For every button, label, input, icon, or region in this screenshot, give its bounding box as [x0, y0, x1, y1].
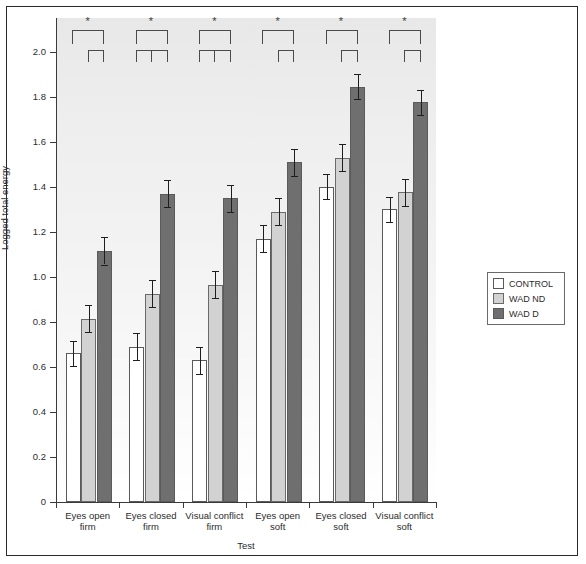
significance-bracket-lower-leg [199, 50, 200, 62]
significance-bracket-lower [278, 50, 294, 51]
error-bar-cap-upper [339, 144, 346, 145]
error-bar-cap-lower [85, 332, 92, 333]
x-axis-tick [119, 502, 120, 508]
significance-bracket-upper [389, 30, 420, 31]
significance-bracket-lower-leg [357, 50, 358, 62]
error-bar-cap-upper [212, 271, 219, 272]
legend-swatch-control-icon [493, 278, 504, 289]
y-axis-tick-label: 2.0 [12, 47, 46, 57]
bar-wadd-group-1 [160, 194, 175, 502]
error-bar-line [279, 198, 280, 225]
error-bar-cap-lower [354, 99, 361, 100]
error-bar-cap-upper [275, 198, 282, 199]
y-axis-tick [50, 52, 56, 53]
x-axis-title: Test [56, 540, 436, 551]
legend-label-control: CONTROL [509, 279, 553, 289]
significance-bracket-lower-leg [136, 50, 137, 62]
error-bar-cap-upper [133, 333, 140, 334]
error-bar-cap-lower [70, 366, 77, 367]
error-bar-line [215, 271, 216, 298]
figure-root: 00.20.40.60.81.01.21.41.61.82.0 Logged t… [0, 0, 586, 564]
x-axis-tick [309, 502, 310, 508]
error-bar-line [342, 144, 343, 171]
error-bar-line [152, 280, 153, 307]
error-bar-cap-upper [70, 341, 77, 342]
error-bar-line [104, 237, 105, 264]
error-bar-cap-upper [323, 174, 330, 175]
significance-bracket-lower-leg [404, 50, 405, 62]
error-bar-line [231, 185, 232, 212]
error-bar-line [200, 347, 201, 374]
legend: CONTROL WAD ND WAD D [487, 272, 565, 325]
bar-wadnd-group-2 [208, 285, 223, 502]
error-bar-line [89, 305, 90, 332]
error-bar-cap-upper [386, 197, 393, 198]
bar-wadnd-group-5 [398, 192, 413, 502]
x-axis-tick [56, 502, 57, 508]
error-bar-line [358, 74, 359, 99]
plot-inner [57, 18, 436, 502]
error-bar-cap-lower [291, 176, 298, 177]
error-bar-line [168, 180, 169, 207]
bar-wadnd-group-1 [145, 294, 160, 502]
significance-bracket-lower [404, 50, 420, 51]
y-axis-tick [50, 232, 56, 233]
error-bar-cap-lower [417, 115, 424, 116]
significance-bracket-lower-leg [151, 50, 152, 62]
significance-bracket-upper-leg [389, 30, 390, 44]
error-bar-cap-lower [402, 206, 409, 207]
significance-bracket-lower-leg [88, 50, 89, 62]
bar-wadnd-group-0 [81, 319, 96, 502]
bar-wadnd-group-4 [335, 158, 350, 502]
y-axis-tick-label: 0.8 [12, 317, 46, 327]
significance-bracket-lower [341, 50, 357, 51]
legend-label-wad-nd: WAD ND [509, 294, 545, 304]
error-bar-cap-upper [101, 237, 108, 238]
significance-bracket-upper-leg [136, 30, 137, 44]
error-bar-cap-upper [164, 180, 171, 181]
error-bar-cap-lower [323, 199, 330, 200]
error-bar-line [294, 149, 295, 176]
significance-bracket-upper [72, 30, 103, 31]
bar-control-group-0 [66, 353, 81, 502]
significance-bracket-upper-leg [167, 30, 168, 44]
error-bar-cap-lower [260, 252, 267, 253]
y-axis-tick-label: 0.2 [12, 452, 46, 462]
legend-item-control: CONTROL [493, 278, 559, 289]
significance-bracket-lower-leg [341, 50, 342, 62]
y-axis-tick-label: 0.4 [12, 407, 46, 417]
significance-bracket-upper-leg [230, 30, 231, 44]
y-axis-tick-label: 1.2 [12, 227, 46, 237]
y-axis-tick [50, 277, 56, 278]
legend-swatch-wad-d-icon [493, 308, 504, 319]
error-bar-line [137, 333, 138, 360]
error-bar-line [263, 225, 264, 252]
significance-bracket-lower-leg [420, 50, 421, 62]
significance-bracket-upper [326, 30, 357, 31]
error-bar-cap-upper [417, 90, 424, 91]
y-axis-title: Logged total energy [0, 166, 10, 250]
legend-item-wad-nd: WAD ND [493, 293, 559, 304]
error-bar-cap-lower [212, 298, 219, 299]
significance-marker: * [272, 16, 284, 27]
bar-wadd-group-4 [350, 87, 365, 502]
y-axis-tick [50, 412, 56, 413]
significance-bracket-upper-leg [326, 30, 327, 44]
error-bar-line [327, 174, 328, 199]
significance-bracket-lower [88, 50, 104, 51]
bar-wadd-group-5 [413, 102, 428, 502]
x-axis-tick [183, 502, 184, 508]
y-axis-tick-label: 0 [12, 497, 46, 507]
error-bar-line [405, 179, 406, 206]
error-bar-cap-lower [386, 222, 393, 223]
x-axis-category-label-line: Visual conflict [358, 510, 450, 521]
significance-bracket-lower-leg [214, 50, 215, 62]
error-bar-cap-upper [354, 74, 361, 75]
significance-bracket-upper-leg [357, 30, 358, 44]
error-bar-cap-upper [85, 305, 92, 306]
x-axis-tick [373, 502, 374, 508]
significance-marker: * [208, 16, 220, 27]
error-bar-cap-lower [164, 207, 171, 208]
error-bar-cap-lower [133, 360, 140, 361]
error-bar-line [73, 341, 74, 366]
